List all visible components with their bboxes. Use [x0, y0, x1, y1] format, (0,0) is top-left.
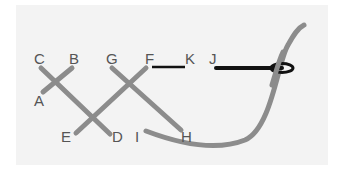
label-i: I: [135, 128, 139, 145]
stitch-g-h: [112, 68, 181, 130]
label-g: G: [106, 50, 118, 67]
label-a: A: [34, 92, 44, 109]
label-e: E: [61, 128, 71, 145]
stitch-c-d: [41, 68, 110, 134]
label-b: B: [69, 50, 79, 67]
label-d: D: [112, 128, 123, 145]
cross-stitch-diagram: C B G F K J A E D I H: [0, 0, 344, 170]
working-thread-curve: [146, 25, 304, 145]
label-f: F: [145, 50, 154, 67]
label-h: H: [181, 128, 192, 145]
stitch-f-e: [76, 68, 146, 133]
needle-icon: [216, 64, 293, 73]
label-c: C: [34, 50, 45, 67]
label-j: J: [209, 50, 217, 67]
label-k: K: [185, 50, 195, 67]
